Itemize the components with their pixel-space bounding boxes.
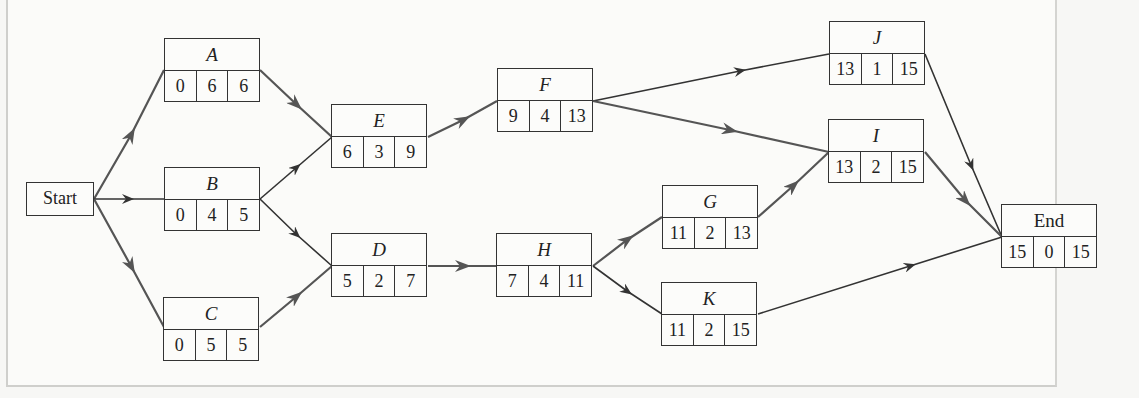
node-k-early-finish: 15 [725, 315, 756, 346]
edge-f-i [593, 101, 829, 152]
node-c-label: C [164, 298, 258, 330]
node-a-early-finish: 6 [228, 71, 259, 102]
node-d: D 5 2 7 [331, 233, 427, 297]
node-j-early-finish: 15 [893, 54, 924, 85]
node-j-duration: 1 [862, 54, 894, 85]
node-i: I 13 2 15 [828, 119, 924, 183]
node-d-early-finish: 7 [395, 266, 426, 297]
node-a: A 0 6 6 [164, 38, 260, 102]
node-k-early-start: 11 [662, 315, 694, 346]
node-f-duration: 4 [530, 101, 562, 132]
node-a-duration: 6 [197, 71, 229, 102]
node-c-duration: 5 [196, 330, 228, 361]
node-i-early-finish: 15 [892, 152, 923, 183]
node-h-label: H [497, 234, 591, 266]
node-e: E 6 3 9 [331, 104, 427, 168]
edge-h-g [593, 217, 662, 266]
node-g-early-start: 11 [663, 218, 695, 249]
node-e-duration: 3 [364, 137, 396, 168]
edge-i-end [925, 152, 1002, 237]
node-g-label: G [663, 186, 757, 218]
node-k-label: K [662, 283, 756, 315]
edge-c-d [260, 266, 332, 327]
edge-start-c [94, 199, 164, 327]
node-end-label: End [1002, 205, 1096, 237]
node-b-label: B [165, 168, 259, 200]
node-k-duration: 2 [694, 315, 726, 346]
edge-b-e [260, 137, 332, 199]
node-g-early-finish: 13 [726, 218, 757, 249]
edge-e-f [428, 101, 497, 137]
node-a-label: A [165, 39, 259, 71]
node-b-duration: 4 [197, 200, 229, 231]
node-end-early-start: 15 [1002, 237, 1034, 268]
node-f-early-start: 9 [498, 101, 530, 132]
edge-g-i [758, 152, 829, 217]
node-d-duration: 2 [364, 266, 396, 297]
edge-k-end [758, 237, 1002, 314]
node-j-label: J [830, 22, 924, 54]
node-g: G 11 2 13 [662, 185, 758, 249]
edge-a-e [260, 70, 332, 137]
node-i-duration: 2 [861, 152, 893, 183]
node-g-duration: 2 [695, 218, 727, 249]
node-c-early-finish: 5 [227, 330, 258, 361]
edge-f-j [593, 54, 829, 101]
node-d-label: D [332, 234, 426, 266]
edge-j-end [925, 54, 1002, 237]
start-node: Start [26, 182, 94, 216]
node-d-early-start: 5 [332, 266, 364, 297]
node-end-duration: 0 [1034, 237, 1066, 268]
node-end: End 15 0 15 [1001, 204, 1097, 268]
node-h: H 7 4 11 [496, 233, 592, 297]
node-i-label: I [829, 120, 923, 152]
node-h-duration: 4 [529, 266, 561, 297]
edge-start-a [94, 70, 164, 199]
node-c: C 0 5 5 [163, 297, 259, 361]
node-e-label: E [332, 105, 426, 137]
node-e-early-start: 6 [332, 137, 364, 168]
node-k: K 11 2 15 [661, 282, 757, 346]
node-i-early-start: 13 [829, 152, 861, 183]
node-b-early-finish: 5 [228, 200, 259, 231]
node-h-early-start: 7 [497, 266, 529, 297]
edge-b-d [260, 199, 332, 266]
node-f: F 9 4 13 [497, 68, 593, 132]
node-b-early-start: 0 [165, 200, 197, 231]
edge-h-k [593, 266, 662, 314]
node-a-early-start: 0 [165, 71, 197, 102]
node-j: J 13 1 15 [829, 21, 925, 85]
node-e-early-finish: 9 [395, 137, 426, 168]
node-b: B 0 4 5 [164, 167, 260, 231]
node-c-early-start: 0 [164, 330, 196, 361]
node-end-early-finish: 15 [1065, 237, 1096, 268]
node-f-early-finish: 13 [561, 101, 592, 132]
node-j-early-start: 13 [830, 54, 862, 85]
node-f-label: F [498, 69, 592, 101]
node-h-early-finish: 11 [560, 266, 591, 297]
